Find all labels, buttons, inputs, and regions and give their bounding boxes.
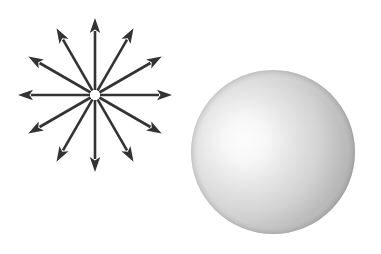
figure-illustration: [0, 0, 381, 254]
sphere-rim-shading: [191, 70, 355, 234]
figure-canvas: [0, 0, 381, 254]
shaded-sphere: [191, 70, 355, 234]
arrow-burst-center-hub: [90, 90, 100, 100]
